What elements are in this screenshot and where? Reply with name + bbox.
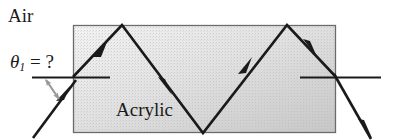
acrylic-label: Acrylic [116,100,173,119]
air-label: Air [8,6,33,25]
theta-symbol: θ [10,51,19,72]
incident-ray [33,80,76,138]
theta1-label: θ1 = ? [10,52,54,73]
refraction-diagram-figure: Air Acrylic θ1 = ? [0,0,393,140]
diagram-canvas [0,0,393,140]
exit-ray [334,74,372,139]
theta-equals-unknown: = ? [25,51,54,72]
acrylic-slab [73,25,336,133]
theta1-angle-arrow [46,80,59,99]
